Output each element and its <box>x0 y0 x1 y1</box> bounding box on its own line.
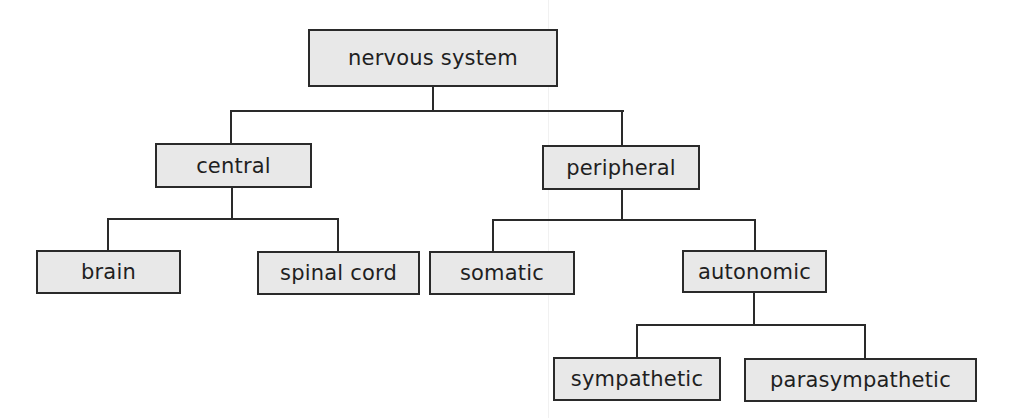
nervous-system-diagram: nervous system central peripheral brain … <box>0 0 1015 418</box>
node-parasympathetic: parasympathetic <box>744 358 977 402</box>
connector-to-autonomic <box>754 219 756 251</box>
node-spinal-cord: spinal cord <box>257 251 420 295</box>
connector-central-stem <box>231 187 233 220</box>
connector-to-brain <box>107 218 109 251</box>
connector-to-parasympathetic <box>864 324 866 359</box>
node-nervous-system: nervous system <box>308 29 558 87</box>
connector-root-stem <box>432 86 434 112</box>
connector-to-spinal-cord <box>337 218 339 252</box>
connector-central-bar <box>107 218 339 220</box>
connector-root-bar <box>230 110 624 112</box>
connector-peripheral-stem <box>621 189 623 221</box>
node-central: central <box>155 143 312 188</box>
connector-peripheral-bar <box>492 219 756 221</box>
connector-to-peripheral <box>621 110 623 146</box>
node-peripheral: peripheral <box>542 145 700 190</box>
connector-to-somatic <box>492 219 494 252</box>
connector-to-sympathetic <box>636 324 638 358</box>
node-brain: brain <box>36 250 181 294</box>
connector-autonomic-bar <box>636 324 866 326</box>
connector-to-central <box>230 110 232 144</box>
node-sympathetic: sympathetic <box>553 357 721 401</box>
connector-autonomic-stem <box>753 292 755 326</box>
node-autonomic: autonomic <box>682 250 827 293</box>
node-somatic: somatic <box>429 251 575 295</box>
